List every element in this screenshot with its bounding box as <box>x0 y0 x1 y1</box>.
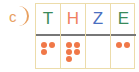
item-label: c <box>9 8 17 26</box>
separator-line <box>36 34 60 36</box>
column-thousands: T <box>36 4 61 68</box>
separator-line <box>111 34 136 36</box>
paren-icon <box>19 6 29 26</box>
column-header: H <box>61 4 85 34</box>
dot-icon <box>124 42 130 48</box>
dot-icon <box>74 42 80 48</box>
separator-line <box>61 34 85 36</box>
dot-icon <box>66 42 72 48</box>
dot-icon <box>74 49 80 55</box>
dot-icon <box>66 49 72 55</box>
dot-group <box>41 42 57 56</box>
dot-icon <box>116 42 122 48</box>
separator-line <box>86 34 110 36</box>
dot-icon <box>41 42 47 48</box>
dot-icon <box>41 49 47 55</box>
place-value-table: T H Z E <box>35 3 135 69</box>
column-ones: E <box>111 4 136 68</box>
column-header: Z <box>86 4 110 34</box>
dot-group <box>116 42 132 49</box>
column-tens: Z <box>86 4 111 68</box>
dot-group <box>66 42 82 63</box>
column-hundreds: H <box>61 4 86 68</box>
column-header: E <box>111 4 136 34</box>
dot-icon <box>49 42 55 48</box>
column-header: T <box>36 4 60 34</box>
dot-icon <box>66 56 72 62</box>
